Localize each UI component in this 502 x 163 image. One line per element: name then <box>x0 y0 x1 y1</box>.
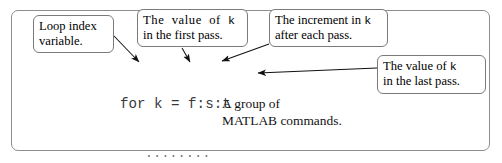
code-token-k: k <box>228 14 236 27</box>
code-block: for k = f:s:t ........ ........ ........… <box>120 63 231 162</box>
commands-note-line1: A group of <box>222 96 342 113</box>
commands-note-line2: MATLAB commands. <box>222 113 342 130</box>
callout-loop-index-line1: Loop index <box>39 19 108 34</box>
callout-increment-line1: The increment in k <box>275 13 382 28</box>
code-token-k: k <box>364 14 371 27</box>
callout-first-pass-line1: The value of k <box>143 13 242 28</box>
callout-last-pass-line2: in the last pass. <box>383 74 480 89</box>
callout-increment-line1-text: The increment in <box>275 13 364 27</box>
callout-last-pass-line1: The value of k <box>383 59 480 74</box>
code-line-for: for k = f:s:t <box>120 96 231 113</box>
callout-last-pass: The value of k in the last pass. <box>377 55 486 94</box>
callout-first-pass: The value of k in the first pass. <box>137 9 248 47</box>
callout-increment: The increment in k after each pass. <box>269 9 388 47</box>
callout-loop-index-line2: variable. <box>39 34 108 49</box>
code-line-dots-1: ........ <box>120 146 231 163</box>
callout-last-pass-line1-text: The value of <box>383 59 450 73</box>
commands-note: A group of MATLAB commands. <box>222 96 342 129</box>
callout-first-pass-line2: in the first pass. <box>143 28 242 43</box>
callout-increment-line2: after each pass. <box>275 28 382 43</box>
callout-loop-index: Loop index variable. <box>33 15 114 53</box>
figure-canvas: Loop index variable. The value of k in t… <box>0 0 502 162</box>
code-token-k: k <box>450 60 457 73</box>
callout-first-pass-line1-text: The value of <box>143 13 228 27</box>
